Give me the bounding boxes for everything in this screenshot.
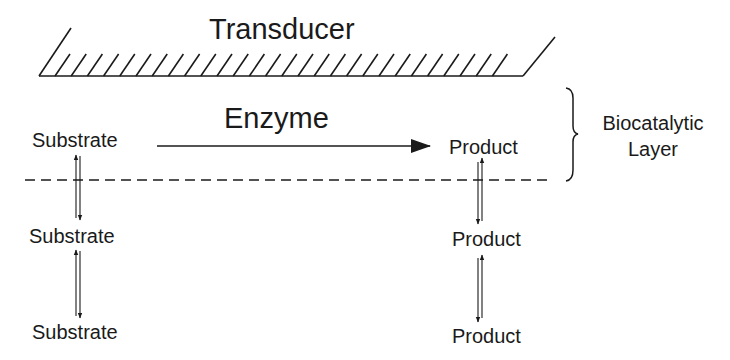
transducer-label: Transducer [209,15,355,44]
substrate-label-bulk: Substrate [32,322,118,342]
layer-label-line1: Biocatalytic [588,110,718,136]
product-label-layer: Product [449,137,518,157]
biosensor-diagram: Transducer Enzyme Substrate Substrate Su… [0,0,730,360]
biocatalytic-layer-label: Biocatalytic Layer [588,110,718,162]
enzyme-label: Enzyme [224,104,329,133]
substrate-label-middle: Substrate [29,226,115,246]
layer-brace [566,88,578,181]
product-label-middle: Product [452,229,521,249]
substrate-label-layer: Substrate [32,130,118,150]
layer-label-line2: Layer [588,136,718,162]
product-label-bulk: Product [452,326,521,346]
diagram-graphics [0,0,730,360]
